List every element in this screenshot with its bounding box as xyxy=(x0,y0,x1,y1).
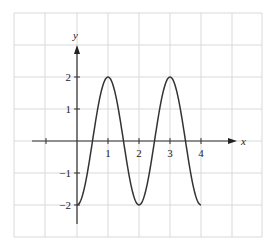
chart: x y 123421−1−2 xyxy=(0,0,267,245)
x-tick-label: 1 xyxy=(105,147,111,159)
x-tick-label: 2 xyxy=(136,147,142,159)
x-tick-label: 3 xyxy=(167,147,173,159)
x-tick-label: 4 xyxy=(198,147,204,159)
y-tick-label: 2 xyxy=(66,71,72,83)
y-axis-arrow-icon xyxy=(74,45,80,54)
grid xyxy=(14,13,262,237)
y-tick-label: −1 xyxy=(59,167,71,179)
y-tick-label: −2 xyxy=(59,199,71,211)
y-axis-label: y xyxy=(72,29,78,41)
y-tick-label: 1 xyxy=(66,103,72,115)
x-axis-label: x xyxy=(240,135,246,147)
